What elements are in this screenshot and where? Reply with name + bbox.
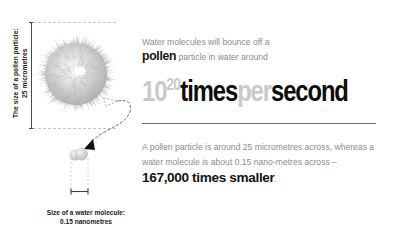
water-scale-label-line2: 0.15 nanometres [16, 217, 156, 226]
pollen-scale-label-line2: 25 micrometres [20, 14, 29, 132]
big-number-word-per: per [237, 75, 271, 107]
pollen-measure-bar [31, 22, 32, 129]
big-number-word-second: second [271, 75, 348, 107]
big-number-headline: 1020timespersecond [142, 74, 339, 110]
detail-part1: A pollen particle is around 25 micrometr… [142, 142, 374, 167]
pollen-scale-label: The size of a pollen particle: 25 microm… [11, 14, 29, 132]
intro-line2-rest: particle in water around [176, 52, 268, 62]
intro-paragraph: Water molecules will bounce off apollen … [142, 35, 380, 65]
intro-line1: Water molecules will bounce off a [142, 37, 270, 47]
infographic-page: The size of a pollen particle: 25 microm… [0, 0, 396, 243]
pollen-scale-label-line1: The size of a pollen particle: [12, 28, 19, 118]
detail-part2: . [274, 174, 276, 184]
intro-emphasis: pollen [142, 49, 176, 63]
big-number-word-times: times [180, 75, 237, 107]
water-molecule-illustration [62, 142, 112, 198]
big-number-base: 10 [142, 75, 166, 107]
detail-emphasis: 167,000 times smaller [142, 170, 274, 185]
water-scale-label-line1: Size of a water molecule: [47, 209, 125, 216]
water-scale-label: Size of a water molecule: 0.15 nanometre… [16, 208, 156, 226]
detail-paragraph: A pollen particle is around 25 micrometr… [142, 140, 382, 188]
illustration-panel: The size of a pollen particle: 25 microm… [0, 0, 140, 243]
big-number-exponent: 20 [166, 75, 180, 94]
text-panel: Water molecules will bounce off apollen … [142, 0, 382, 243]
section-divider [142, 123, 376, 124]
